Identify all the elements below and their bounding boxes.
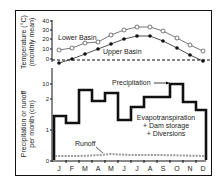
month-labels: J F M A M J J A S O N D: [57, 165, 205, 172]
runoff-line: [55, 154, 205, 156]
month-feb: F: [70, 165, 74, 172]
runoff-arrow: [96, 147, 103, 153]
lower-y-label-1: Precipitation or runoff: [20, 91, 28, 157]
upper-y-ticks: 40 30 20 10 0: [42, 18, 52, 62]
month-sep: S: [161, 165, 166, 172]
runoff-label: Runoff: [75, 140, 96, 147]
month-jul: J: [135, 165, 139, 172]
month-jan: J: [57, 165, 61, 172]
dam-storage-label: + Dam storage: [143, 122, 189, 130]
upper-tick-20: 20: [42, 36, 49, 42]
month-may: M: [108, 165, 114, 172]
month-mar: M: [82, 165, 88, 172]
evapotranspiration-label: Evapotranspiration: [137, 114, 195, 122]
month-nov: N: [187, 165, 192, 172]
climate-chart-figure: Temperature (°C) (monthly mean) 40 30 20…: [0, 0, 224, 188]
upper-tick-10: 10: [42, 46, 49, 52]
upper-tick-0: 0: [46, 56, 50, 62]
month-dec: D: [200, 165, 205, 172]
lower-tick-0: 0: [46, 158, 50, 164]
upper-basin-label: Upper Basin: [103, 48, 142, 56]
diversions-label: + Diversions: [147, 130, 186, 137]
upper-panel: Temperature (°C) (monthly mean) 40 30 20…: [20, 15, 210, 69]
upper-tick-30: 30: [42, 27, 49, 33]
month-jun: J: [122, 165, 126, 172]
lower-tick-2: 2: [46, 96, 50, 102]
upper-tick-40: 40: [42, 18, 49, 24]
lower-tick-10: 10: [42, 81, 49, 87]
month-apr: A: [96, 165, 101, 172]
lower-panel: Precipitation or runoff per month (cm) 1…: [20, 68, 206, 172]
precipitation-label: Precipitation: [112, 79, 151, 87]
lower-tick-1: 1: [46, 127, 50, 133]
upper-y-label-1: Temperature (°C): [20, 15, 28, 69]
upper-y-label-2: (monthly mean): [28, 18, 36, 67]
lower-basin-label: Lower Basin: [58, 34, 97, 41]
lower-y-label-2: per month (cm): [28, 100, 36, 147]
lower-y-ticks: 10 2 1 0: [42, 81, 52, 164]
month-aug: A: [148, 165, 153, 172]
month-oct: O: [174, 165, 180, 172]
